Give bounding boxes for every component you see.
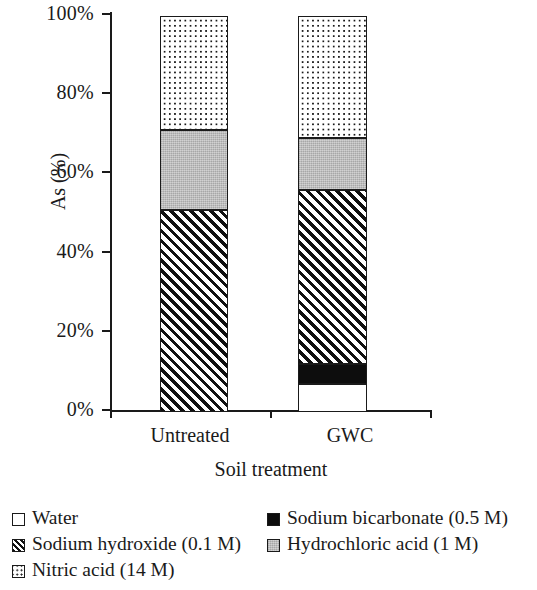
plot-area — [110, 14, 430, 410]
y-axis-tick-label-40: 40% — [56, 240, 94, 263]
y-axis-tick-40: 40% — [102, 251, 110, 253]
nitric-acid-swatch-icon — [12, 565, 25, 578]
legend-label-sodium-bicarbonate: Sodium bicarbonate (0.5 M) — [287, 505, 508, 531]
legend-row: Water Sodium bicarbonate (0.5 M) — [12, 505, 537, 531]
legend-item-water[interactable]: Water — [12, 505, 78, 531]
legend-row: Nitric acid (14 M) — [12, 557, 537, 583]
hydrochloric-acid-swatch-icon — [267, 539, 280, 552]
legend-item-nitric-acid[interactable]: Nitric acid (14 M) — [12, 557, 174, 583]
bar-segment-untreated-hydrochloric-acid[interactable] — [160, 130, 228, 209]
y-axis-title: As (%) — [47, 122, 70, 242]
bar-gwc[interactable] — [298, 14, 367, 410]
bar-segment-gwc-water[interactable] — [298, 384, 367, 412]
x-axis-tick-end — [430, 410, 432, 418]
bar-segment-untreated-sodium-hydroxide[interactable] — [160, 210, 228, 412]
y-axis-tick-label-100: 100% — [46, 2, 94, 25]
legend-item-sodium-hydroxide[interactable]: Sodium hydroxide (0.1 M) — [12, 531, 241, 557]
stacked-bar-chart-figure: 100% 80% 60% 40% 20% 0% As (%) — [0, 0, 537, 590]
bar-segment-gwc-sodium-bicarbonate[interactable] — [298, 364, 367, 384]
water-swatch-icon — [12, 513, 25, 526]
y-axis-tick-80: 80% — [102, 92, 110, 94]
bar-segment-gwc-sodium-hydroxide[interactable] — [298, 190, 367, 364]
x-axis-category-label-gwc: GWC — [270, 424, 430, 447]
x-axis-tick-mid — [270, 410, 272, 418]
chart-legend: Water Sodium bicarbonate (0.5 M) Sodium … — [12, 505, 537, 583]
y-axis-tick-label-0: 0% — [67, 398, 94, 421]
bar-segment-gwc-nitric-acid[interactable] — [298, 16, 367, 139]
legend-label-hydrochloric-acid: Hydrochloric acid (1 M) — [287, 531, 478, 557]
legend-label-sodium-hydroxide: Sodium hydroxide (0.1 M) — [32, 531, 241, 557]
y-axis-tick-60: 60% — [102, 171, 110, 173]
legend-row: Sodium hydroxide (0.1 M) Hydrochloric ac… — [12, 531, 537, 557]
x-axis-category-label-untreated: Untreated — [110, 424, 270, 447]
y-axis-tick-20: 20% — [102, 330, 110, 332]
y-axis-tick-label-20: 20% — [56, 319, 94, 342]
sodium-bicarbonate-swatch-icon — [267, 513, 280, 526]
bar-segment-untreated-nitric-acid[interactable] — [160, 16, 228, 131]
x-axis-tick-start — [110, 410, 112, 418]
legend-item-sodium-bicarbonate[interactable]: Sodium bicarbonate (0.5 M) — [267, 505, 508, 531]
legend-label-nitric-acid: Nitric acid (14 M) — [32, 557, 174, 583]
y-axis-tick-0: 0% — [102, 409, 110, 411]
sodium-hydroxide-swatch-icon — [12, 539, 25, 552]
legend-item-hydrochloric-acid[interactable]: Hydrochloric acid (1 M) — [267, 531, 478, 557]
bar-segment-gwc-hydrochloric-acid[interactable] — [298, 138, 367, 189]
y-axis-tick-label-80: 80% — [56, 81, 94, 104]
y-axis-tick-100: 100% — [102, 13, 110, 15]
bar-untreated[interactable] — [160, 14, 228, 410]
x-axis-title: Soil treatment — [110, 458, 432, 481]
legend-label-water: Water — [32, 505, 78, 531]
